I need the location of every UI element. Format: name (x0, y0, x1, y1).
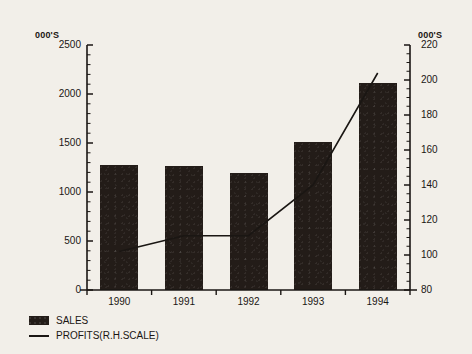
axis-tick-marks (87, 45, 410, 295)
legend-label-sales: SALES (56, 315, 88, 326)
legend-label-profits: PROFITS(R.H.SCALE) (56, 330, 159, 341)
legend-item-profits: PROFITS(R.H.SCALE) (29, 330, 159, 341)
legend-line-profits-icon (29, 335, 49, 337)
chart-plot-svg (0, 0, 472, 354)
axis-lines (80, 45, 417, 290)
legend-swatch-sales-icon (29, 316, 49, 325)
chart-container: 000'S 000'S 05001000150020002500 8010012… (0, 0, 472, 354)
legend-item-sales: SALES (29, 315, 88, 326)
line-series-profits (119, 73, 377, 252)
